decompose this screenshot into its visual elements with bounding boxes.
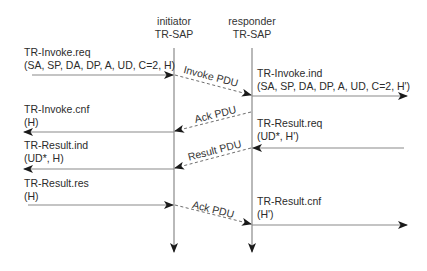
invoke-req-name: TR-Invoke.req [24,46,175,59]
result-req-params: (UD*, H') [257,130,322,143]
result-cnf-label: TR-Result.cnf (H') [257,195,321,221]
invoke-cnf-params: (H) [24,116,89,129]
result-ind-params: (UD*, H) [24,152,88,165]
result-res-name: TR-Result.res [24,177,89,190]
responder-header: responder TR-SAP [212,15,292,41]
initiator-header: initiator TR-SAP [134,15,214,41]
invoke-ind-params: (SA, SP, DA, DP, A, UD, C=2, H') [257,80,410,93]
invoke-ind-name: TR-Invoke.ind [257,67,410,80]
invoke-cnf-label: TR-Invoke.cnf (H) [24,103,89,129]
initiator-header-line2: TR-SAP [134,28,214,41]
result-req-label: TR-Result.req (UD*, H') [257,117,322,143]
responder-header-line2: TR-SAP [212,28,292,41]
result-res-params: (H) [24,190,89,203]
result-ind-label: TR-Result.ind (UD*, H) [24,139,88,165]
invoke-req-label: TR-Invoke.req (SA, SP, DA, DP, A, UD, C=… [24,46,175,72]
result-cnf-params: (H') [257,208,321,221]
initiator-header-line1: initiator [134,15,214,28]
result-ind-name: TR-Result.ind [24,139,88,152]
result-req-name: TR-Result.req [257,117,322,130]
invoke-req-params: (SA, SP, DA, DP, A, UD, C=2, H) [24,59,175,72]
invoke-ind-label: TR-Invoke.ind (SA, SP, DA, DP, A, UD, C=… [257,67,410,93]
result-res-label: TR-Result.res (H) [24,177,89,203]
invoke-cnf-name: TR-Invoke.cnf [24,103,89,116]
result-cnf-name: TR-Result.cnf [257,195,321,208]
responder-header-line1: responder [212,15,292,28]
